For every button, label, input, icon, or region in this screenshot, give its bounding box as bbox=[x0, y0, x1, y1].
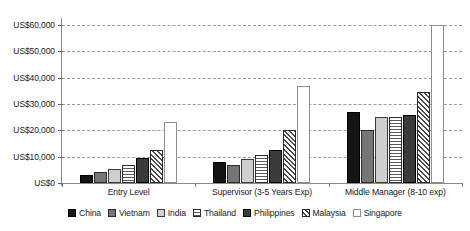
x-tick-mark bbox=[462, 183, 463, 187]
y-axis-tick-label: US$0 bbox=[34, 178, 55, 188]
bar-malaysia bbox=[283, 130, 296, 183]
chart-legend: ChinaVietnamIndiaThailandPhilippinesMala… bbox=[0, 208, 470, 218]
category-axis-labels: Entry LevelSupervisor (3-5 Years Exp)Mid… bbox=[62, 187, 462, 203]
bar-thailand bbox=[255, 155, 268, 183]
bar-philippines bbox=[403, 115, 416, 183]
bar-india bbox=[241, 159, 254, 183]
bar-chart: US$60,000US$50,000US$40,000US$30,000US$2… bbox=[0, 0, 470, 231]
bar-vietnam bbox=[227, 165, 240, 183]
legend-swatch-singapore bbox=[353, 209, 361, 217]
bar-india bbox=[375, 117, 388, 183]
legend-item-thailand[interactable]: Thailand bbox=[193, 208, 236, 218]
legend-item-china[interactable]: China bbox=[68, 208, 101, 218]
bar-group-entry-level bbox=[62, 25, 195, 183]
bar-china bbox=[80, 175, 93, 183]
x-axis-line bbox=[61, 183, 463, 184]
bar-thailand bbox=[122, 165, 135, 183]
bar-malaysia bbox=[150, 150, 163, 183]
category-label-entry-level: Entry Level bbox=[62, 187, 195, 203]
y-axis-tick-label: US$60,000 bbox=[13, 20, 55, 30]
legend-label: Vietnam bbox=[119, 208, 150, 218]
bar-thailand bbox=[389, 117, 402, 183]
bar-vietnam bbox=[361, 130, 374, 183]
legend-label: Malaysia bbox=[313, 208, 346, 218]
legend-label: India bbox=[168, 208, 186, 218]
bar-singapore bbox=[297, 86, 310, 183]
plot-area: US$60,000US$50,000US$40,000US$30,000US$2… bbox=[62, 25, 462, 183]
y-axis-tick-label: US$10,000 bbox=[13, 152, 55, 162]
y-axis-tick-label: US$20,000 bbox=[13, 125, 55, 135]
legend-label: China bbox=[79, 208, 101, 218]
y-axis-tick-label: US$50,000 bbox=[13, 46, 55, 56]
legend-swatch-india bbox=[157, 209, 165, 217]
legend-swatch-vietnam bbox=[108, 209, 116, 217]
y-axis-tick-label: US$30,000 bbox=[13, 99, 55, 109]
bar-philippines bbox=[136, 158, 149, 183]
bar-group-middle-manager-8-10-exp bbox=[329, 25, 462, 183]
legend-swatch-philippines bbox=[243, 209, 251, 217]
bar-groups bbox=[62, 25, 462, 183]
legend-item-philippines[interactable]: Philippines bbox=[243, 208, 294, 218]
bar-philippines bbox=[269, 150, 282, 183]
bar-singapore bbox=[431, 25, 444, 183]
legend-label: Thailand bbox=[204, 208, 236, 218]
bar-china bbox=[213, 162, 226, 183]
legend-label: Singapore bbox=[364, 208, 402, 218]
legend-swatch-china bbox=[68, 209, 76, 217]
legend-item-singapore[interactable]: Singapore bbox=[353, 208, 402, 218]
bar-india bbox=[108, 169, 121, 183]
bar-vietnam bbox=[94, 172, 107, 183]
legend-label: Philippines bbox=[254, 208, 294, 218]
legend-item-malaysia[interactable]: Malaysia bbox=[302, 208, 346, 218]
legend-swatch-malaysia bbox=[302, 209, 310, 217]
y-axis-tick-label: US$40,000 bbox=[13, 73, 55, 83]
category-label-middle-manager-8-10-exp: Middle Manager (8-10 exp) bbox=[329, 187, 462, 203]
bar-group-supervisor-3-5-years-exp bbox=[195, 25, 328, 183]
bar-china bbox=[347, 112, 360, 183]
legend-item-vietnam[interactable]: Vietnam bbox=[108, 208, 150, 218]
bar-singapore bbox=[164, 122, 177, 183]
category-label-supervisor-3-5-years-exp: Supervisor (3-5 Years Exp) bbox=[195, 187, 328, 203]
bar-malaysia bbox=[417, 92, 430, 183]
legend-item-india[interactable]: India bbox=[157, 208, 186, 218]
legend-swatch-thailand bbox=[193, 209, 201, 217]
